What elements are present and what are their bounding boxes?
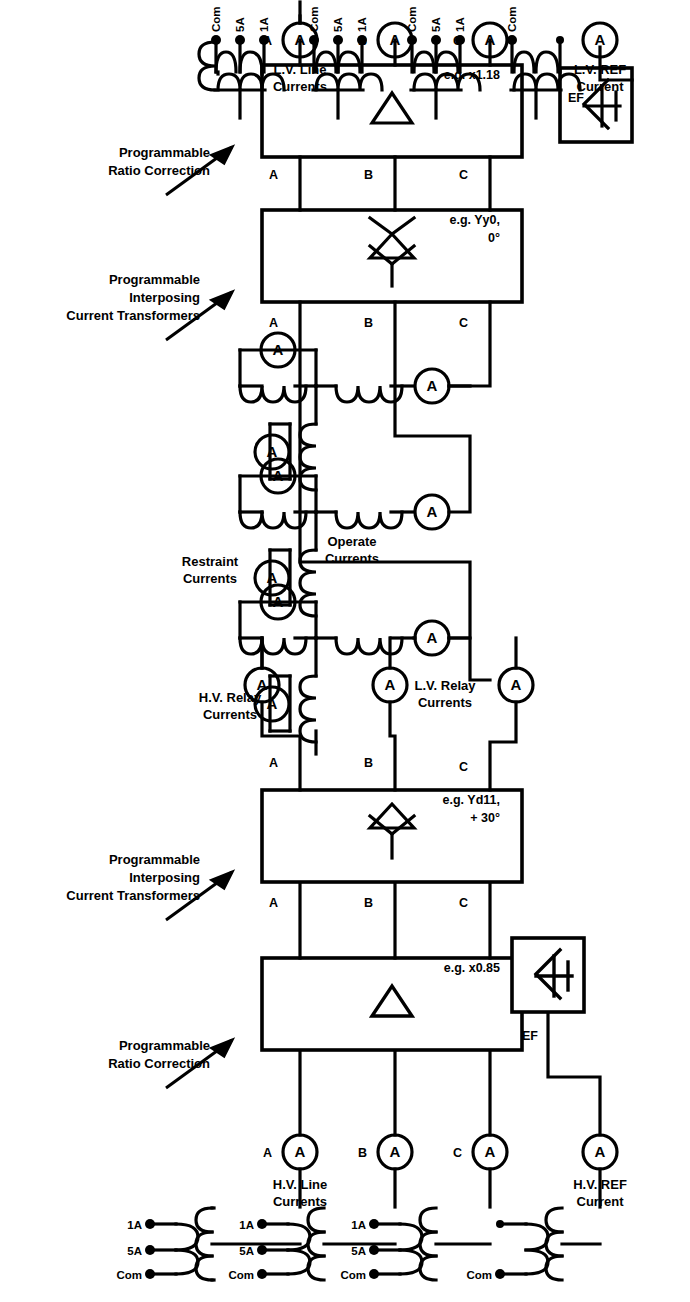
lv-ct-b-term-1a: 1A [356, 17, 368, 32]
lv-ct-bank-overlay: Com 5A 1A Com 5A 1A Com 5A 1A Com [0, 0, 690, 1302]
lv-ct-ref-term-com: Com [506, 6, 518, 32]
lv-ct-ref [511, 40, 580, 118]
lv-ct-b-term-5a: 5A [332, 17, 344, 32]
lv-ct-c-term-1a: 1A [454, 17, 466, 32]
lv-ct-a-term-5a: 5A [234, 17, 246, 32]
lv-ct-a-term-1a: 1A [258, 17, 270, 32]
lv-ct-c-term-5a: 5A [430, 17, 442, 32]
lv-ct-phase-a [199, 40, 284, 118]
lv-ct-phase-b [313, 40, 382, 118]
diagram-canvas: Com 5A 1A Com 5A 1A Com 5A 1A Com A B C … [0, 0, 690, 1302]
lv-ct-a-term-com: Com [210, 6, 222, 32]
lv-ct-c-term-com: Com [406, 6, 418, 32]
lv-ct-b-term-com: Com [308, 6, 320, 32]
lv-terminal-dots [211, 35, 564, 45]
lv-ct-phase-c [411, 40, 480, 118]
